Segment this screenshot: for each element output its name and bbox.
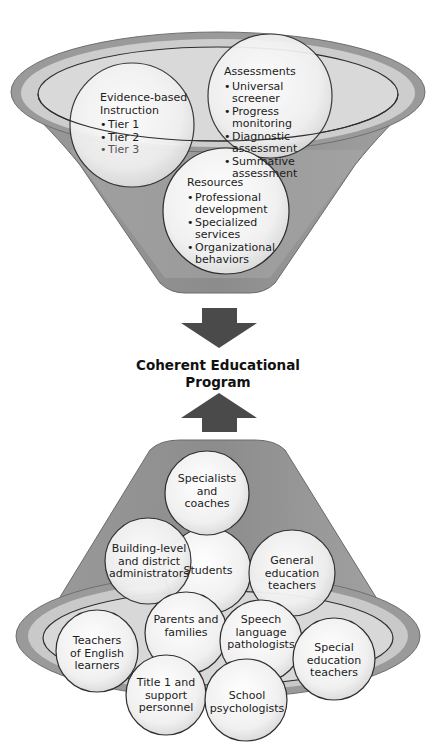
school-psychologists-circle: School psychologists: [209, 690, 285, 715]
assessments-circle: Assessments Universal screener Progress …: [224, 66, 334, 181]
resources-list: Professional development Specialized ser…: [187, 192, 273, 267]
evidence-title-line1: Evidence-based: [100, 92, 190, 105]
assessments-list: Universal screener Progress monitoring D…: [224, 81, 334, 181]
resources-circle: Resources Professional development Speci…: [187, 177, 273, 267]
program-label-line2: Program: [0, 374, 436, 391]
tier-list: Tier 1 Tier 2 Tier 3: [100, 119, 190, 157]
coherent-program-label: Coherent Educational Program: [0, 357, 436, 391]
evidence-title-line2: Instruction: [100, 105, 190, 118]
parents-families-circle: Parents and families: [152, 614, 220, 639]
special-education-circle: Special education teachers: [302, 642, 366, 680]
resource-item: Organizational behaviors: [187, 242, 273, 267]
assessments-title: Assessments: [224, 66, 334, 79]
general-education-circle: General education teachers: [260, 555, 324, 593]
assessment-item: Progress monitoring: [224, 106, 334, 131]
tier-item: Tier 1: [100, 119, 190, 132]
evidence-based-instruction-circle: Evidence-based Instruction Tier 1 Tier 2…: [100, 92, 190, 157]
tier-item: Tier 3: [100, 144, 190, 157]
arrow-up-icon: [181, 393, 257, 432]
english-learners-teachers-circle: Teachers of English learners: [66, 635, 128, 673]
resources-title: Resources: [187, 177, 273, 190]
resource-item: Specialized services: [187, 217, 273, 242]
program-label-line1: Coherent Educational: [0, 357, 436, 374]
specialists-circle: Specialists and coaches: [175, 473, 239, 511]
assessment-item: Diagnostic assessment: [224, 131, 312, 156]
resource-item: Professional development: [187, 192, 273, 217]
assessment-item: Universal screener: [224, 81, 334, 106]
title1-support-circle: Title 1 and support personnel: [135, 677, 197, 715]
arrow-down-icon: [181, 308, 257, 348]
speech-language-circle: Speech language pathologists: [223, 614, 299, 652]
administrators-circle: Building-level and district administrato…: [108, 543, 190, 581]
